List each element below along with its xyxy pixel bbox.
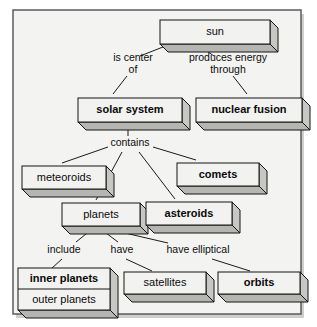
link-label-have-elliptical-line-0: have elliptical bbox=[166, 243, 229, 255]
link-label-produces-energy-line-1: through bbox=[210, 63, 246, 75]
concept-map-page: sunsolar systemnuclear fusionmeteoroidsc… bbox=[0, 0, 317, 327]
node-planets-label: planets bbox=[83, 208, 119, 220]
link-label-contains: contains bbox=[110, 136, 149, 148]
node-comets[interactable]: comets bbox=[177, 163, 267, 194]
node-orbits-label: orbits bbox=[244, 276, 275, 288]
node-orbits[interactable]: orbits bbox=[218, 272, 308, 302]
link-label-produces-energy-line-0: produces energy bbox=[189, 51, 268, 63]
node-satellites-label: satellites bbox=[144, 276, 187, 288]
node-orbits-box-bottom-face bbox=[218, 294, 308, 302]
node-planets-inner-outer[interactable]: inner planetsouter planets bbox=[18, 268, 118, 318]
link-label-is-center-of-line-1: of bbox=[129, 63, 138, 75]
node-nuclear-fusion-label: nuclear fusion bbox=[211, 103, 286, 115]
node-planets[interactable]: planets bbox=[62, 203, 148, 234]
concept-map-canvas: sunsolar systemnuclear fusionmeteoroidsc… bbox=[0, 0, 317, 327]
link-label-is-center-of-line-0: is center bbox=[113, 51, 153, 63]
node-nuclear-fusion[interactable]: nuclear fusion bbox=[196, 98, 310, 130]
link-label-have-line-0: have bbox=[111, 243, 134, 255]
node-meteoroids[interactable]: meteoroids bbox=[22, 166, 114, 197]
link-label-contains-line-0: contains bbox=[110, 136, 149, 148]
node-solar-system-box-bottom-face bbox=[78, 122, 190, 130]
node-comets-label: comets bbox=[199, 168, 238, 180]
node-sun[interactable]: sun bbox=[160, 20, 278, 52]
node-satellites-box-bottom-face bbox=[124, 294, 214, 302]
node-planets-inner-outer-row-1-label: outer planets bbox=[32, 293, 96, 305]
node-satellites[interactable]: satellites bbox=[124, 272, 214, 302]
node-asteroids[interactable]: asteroids bbox=[146, 202, 240, 233]
node-meteoroids-label: meteoroids bbox=[37, 171, 92, 183]
node-asteroids-box-bottom-face bbox=[146, 225, 240, 233]
link-label-have-elliptical: have elliptical bbox=[166, 243, 229, 255]
node-meteoroids-box-bottom-face bbox=[22, 189, 114, 197]
link-label-have: have bbox=[111, 243, 134, 255]
node-comets-box-bottom-face bbox=[177, 186, 267, 194]
node-sun-label: sun bbox=[206, 25, 224, 37]
node-nuclear-fusion-box-bottom-face bbox=[196, 122, 310, 130]
node-solar-system-label: solar system bbox=[96, 103, 163, 115]
node-asteroids-label: asteroids bbox=[165, 207, 214, 219]
node-planets-box-bottom-face bbox=[62, 226, 148, 234]
node-planets-inner-outer-box-bottom-face bbox=[18, 310, 118, 318]
link-label-include: include bbox=[47, 243, 80, 255]
node-solar-system[interactable]: solar system bbox=[78, 98, 190, 130]
link-label-include-line-0: include bbox=[47, 243, 80, 255]
node-planets-inner-outer-row-0-label: inner planets bbox=[30, 272, 98, 284]
